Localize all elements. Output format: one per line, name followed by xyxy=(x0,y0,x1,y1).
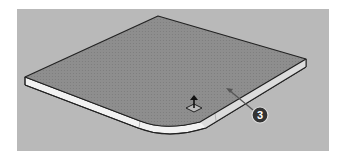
callout-badge: 3 xyxy=(252,107,268,123)
3d-viewport[interactable]: 3 xyxy=(17,9,329,151)
svg-text:3: 3 xyxy=(257,109,263,121)
